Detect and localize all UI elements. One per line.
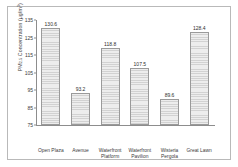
bar	[101, 48, 120, 125]
y-axis-tick-label: 115	[25, 52, 33, 58]
y-axis-tick-label: 125	[25, 35, 33, 41]
y-axis-title-middle: Concentration (μg/m	[17, 7, 23, 58]
bar-value-label: 118.8	[104, 41, 116, 47]
y-axis-tick-mark	[34, 20, 37, 21]
bar-value-label: 93.2	[76, 86, 86, 92]
bar-value-label: 130.6	[45, 21, 58, 27]
bar	[41, 28, 60, 125]
y-axis-tick-mark	[34, 37, 37, 38]
bar	[190, 32, 209, 125]
y-axis-title-superscript: 3	[17, 5, 21, 7]
bar	[71, 93, 90, 125]
x-axis-tick-label: Great Lawn	[179, 148, 219, 154]
bar-value-label: 107.5	[134, 61, 147, 67]
chart-figure: PM2.5 Concentration (μg/m3) 135125115105…	[0, 0, 238, 167]
y-axis-title: PM2.5 Concentration (μg/m3)	[17, 0, 23, 79]
y-axis-tick-label: 105	[25, 70, 33, 76]
x-axis-tick-label-line: Pergola	[150, 154, 190, 160]
y-axis-tick-mark	[34, 90, 37, 91]
x-axis-tick-label-line: Great Lawn	[179, 148, 219, 154]
y-axis-tick-mark	[34, 107, 37, 108]
y-axis-title-subscript: 2.5	[19, 58, 23, 64]
plot-area: 135125115105958575 130.693.2118.8107.589…	[36, 20, 214, 125]
bar	[130, 68, 149, 125]
y-axis-tick-label: 95	[27, 87, 33, 93]
y-axis-tick-mark	[34, 72, 37, 73]
y-axis-title-suffix: )	[17, 3, 23, 5]
bar	[160, 99, 179, 125]
y-axis-tick-label: 75	[27, 122, 33, 128]
y-axis-title-prefix: PM	[17, 63, 23, 71]
bar-value-label: 128.4	[193, 25, 206, 31]
y-axis-tick-mark	[34, 55, 37, 56]
y-axis-tick-label: 135	[25, 17, 33, 23]
x-axis-line	[36, 125, 215, 126]
bar-value-label: 89.6	[165, 92, 175, 98]
y-axis-tick-mark	[34, 125, 37, 126]
y-axis-tick-label: 85	[27, 105, 33, 111]
